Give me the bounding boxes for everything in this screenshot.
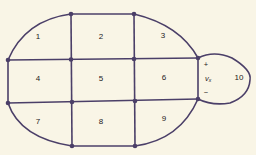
source-plus-sign: + (204, 60, 209, 69)
mesh-label-7: 7 (36, 117, 41, 126)
node (196, 56, 201, 61)
edge-arc-bottom-right (135, 99, 198, 146)
mesh-label-2: 2 (99, 32, 104, 41)
node (132, 57, 137, 62)
mesh-label-3: 3 (161, 31, 166, 40)
mesh-label-6: 6 (162, 73, 167, 82)
node (69, 57, 74, 62)
source-minus-sign: − (204, 88, 209, 97)
node (70, 100, 75, 105)
mesh-label-5: 5 (99, 74, 104, 83)
edge-col-left (71, 14, 72, 146)
node (132, 12, 137, 17)
node (196, 97, 201, 102)
node (6, 101, 11, 106)
edge-col-right (134, 14, 135, 146)
source-label: vx (205, 74, 212, 83)
mesh-label-9: 9 (162, 114, 167, 123)
edge-arc-top-right (134, 14, 198, 58)
mesh-diagram: 1 2 3 4 5 6 7 8 9 10 + vx − (0, 0, 256, 155)
node (70, 144, 75, 149)
node (133, 99, 138, 104)
mesh-label-1: 1 (36, 32, 41, 41)
source-subscript: x (208, 77, 212, 83)
mesh-label-4: 4 (36, 74, 41, 83)
node (133, 144, 138, 149)
mesh-label-8: 8 (99, 117, 104, 126)
node (6, 58, 11, 63)
edge-row-upper (8, 58, 198, 60)
node (69, 12, 74, 17)
mesh-label-10: 10 (235, 73, 244, 82)
edge-row-lower (8, 99, 198, 103)
